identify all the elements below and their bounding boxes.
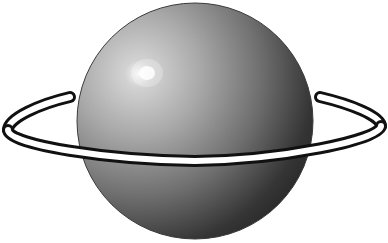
planet-sphere (77, 3, 313, 239)
planet-svg (0, 0, 388, 243)
planet-illustration (0, 0, 388, 243)
